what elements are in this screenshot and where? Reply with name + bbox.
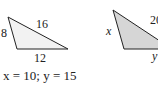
answer-text: x = 10; y = 15 [3,68,77,84]
triangle-b: x 20 y [105,10,158,63]
triangle-b-top-label: 20 [150,13,158,27]
triangle-a-top-label: 16 [36,17,48,31]
triangle-a-bottom-label: 12 [34,51,46,65]
triangle-b-bottom-label: y [151,49,158,63]
triangle-a: 8 16 12 [1,17,68,65]
triangle-b-left-label: x [105,24,112,38]
triangle-a-left-label: 8 [1,26,7,40]
